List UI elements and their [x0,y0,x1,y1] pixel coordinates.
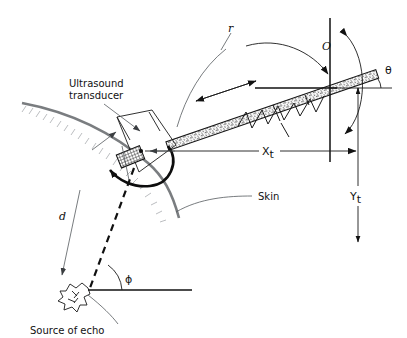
beam-direction-arrows [196,81,256,101]
phi-label: ϕ [125,273,132,286]
r-arc-right [246,43,328,74]
range-r: r [177,22,328,127]
figure-canvas: Skin O θ [0,0,407,338]
source-of-echo-label: Source of echo [30,325,104,336]
xt-label: Xt [262,145,275,161]
ultrasound-transducer [110,110,176,186]
ultrasound-beam [166,70,379,151]
origin-label: O [322,40,331,53]
phi-arc [108,265,122,290]
yt-measure: Yt [349,88,362,242]
r-label: r [228,22,234,35]
transducer-leader-1 [104,104,140,131]
theta-arc [378,79,381,88]
echo-path: d [59,168,134,288]
transducer-edge-line [117,117,130,140]
r-arc-left [177,49,226,127]
phi-angle: ϕ [88,265,192,290]
transducer-inner-line [149,112,160,131]
blob-interior-marks [68,291,79,303]
skin-leader-line [176,196,252,212]
ultrasound-label-line2: transducer [69,90,124,101]
yt-label: Yt [349,190,362,206]
theta-label: θ [385,64,392,77]
beam-arrow-right [196,81,256,101]
echo-source-marker: Source of echo [30,283,118,336]
skin-hatch-marks [22,106,166,222]
echo-source-leader [88,295,118,324]
diagram-svg: Skin O θ [0,0,407,338]
d-leader-line [62,190,80,275]
r-leader [221,33,231,50]
transducer-center-dot [139,149,143,153]
skin-label: Skin [258,191,279,202]
d-dashed-line [90,168,134,288]
beam-band [166,70,379,151]
d-label: d [59,210,66,223]
transducer-leader-3 [92,132,116,150]
ultrasound-label-line1: Ultrasound [69,78,124,89]
